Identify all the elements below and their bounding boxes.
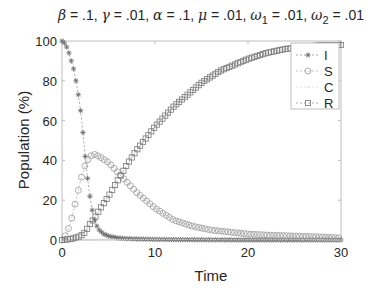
x-axis-label: Time [195,267,228,284]
y-tick-label: 60 [43,114,57,129]
y-tick-label: 100 [35,34,57,49]
x-tick-label: 20 [241,245,255,260]
series-s [59,151,342,243]
legend: ISCR [291,43,339,111]
y-axis-label: Population (%) [15,91,32,189]
x-tick-label: 30 [334,245,348,260]
y-tick-label: 80 [43,74,57,89]
legend-label: S [324,64,333,79]
legend-label: R [324,96,333,111]
chart-title: β = .1, γ = .01, α = .1, μ = .01, ω1 = .… [57,7,364,26]
y-tick-label: 0 [50,233,57,248]
x-tick-label: 10 [148,245,162,260]
y-tick-label: 40 [43,153,57,168]
legend-label: I [324,48,328,63]
x-tick-label: 0 [58,245,65,260]
legend-label: C [324,80,333,95]
chart: β = .1, γ = .01, α = .1, μ = .01, ω1 = .… [0,0,375,292]
y-tick-label: 20 [43,193,57,208]
